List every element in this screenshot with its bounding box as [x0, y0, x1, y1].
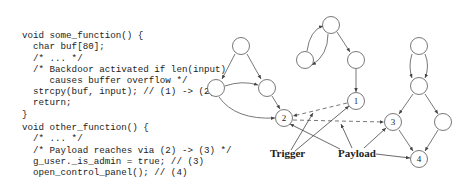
trigger-label: Trigger: [270, 147, 305, 159]
control-flow-graph: 2134: [0, 0, 473, 179]
svg-text:1: 1: [354, 96, 359, 106]
svg-text:2: 2: [282, 113, 287, 123]
payload-label: Payload: [338, 147, 376, 159]
svg-text:3: 3: [391, 117, 396, 127]
svg-text:4: 4: [417, 154, 422, 164]
